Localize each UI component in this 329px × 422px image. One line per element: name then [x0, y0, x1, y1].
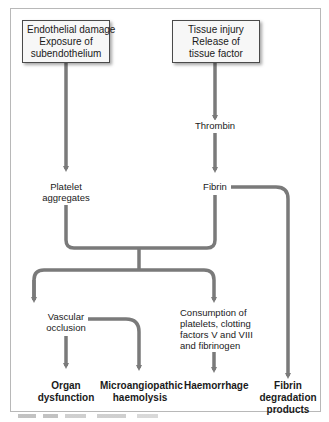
label-line: Vascular: [44, 311, 88, 322]
fibrin-degradation-products-outcome: Fibrin degradation products: [258, 380, 318, 416]
outcome-line: Organ: [36, 380, 96, 392]
consumption-label: Consumption of platelets, clotting facto…: [180, 307, 260, 351]
label-line: aggregates: [40, 192, 92, 203]
outcome-line: Haemorrhage: [184, 380, 244, 392]
box-line: Exposure of: [27, 36, 105, 48]
box-line: Endothelial damage: [27, 24, 105, 36]
thrombin-label: Thrombin: [190, 120, 240, 131]
figure-caption-cutoff: [18, 414, 198, 418]
box-line: Release of: [177, 36, 255, 48]
platelet-aggregates-label: Platelet aggregates: [40, 181, 92, 203]
fibrin-label: Fibrin: [199, 181, 231, 192]
outcome-line: Microangiopathic: [100, 380, 180, 392]
vascular-occlusion-label: Vascular occlusion: [44, 311, 88, 333]
label-line: occlusion: [44, 322, 88, 333]
outcome-line: products: [258, 404, 318, 416]
label-line: factors V and VIII: [180, 329, 260, 340]
fibrin-text: Fibrin: [199, 181, 231, 192]
label-line: and fibrinogen: [180, 340, 260, 351]
outcome-line: haemolysis: [100, 392, 180, 404]
haemorrhage-outcome: Haemorrhage: [184, 380, 244, 392]
label-line: Consumption of: [180, 307, 260, 318]
box-line: subendothelium: [27, 48, 105, 60]
label-line: platelets, clotting: [180, 318, 260, 329]
box-line: tissue factor: [177, 48, 255, 60]
outcome-line: dysfunction: [36, 392, 96, 404]
outcome-line: degradation: [258, 392, 318, 404]
microangiopathic-haemolysis-outcome: Microangiopathic haemolysis: [100, 380, 180, 404]
outcome-line: Fibrin: [258, 380, 318, 392]
tissue-injury-box: Tissue injury Release of tissue factor: [172, 20, 260, 63]
label-line: Platelet: [40, 181, 92, 192]
box-line: Tissue injury: [177, 24, 255, 36]
arrow-connectors: [0, 0, 329, 422]
endothelial-damage-box: Endothelial damage Exposure of subendoth…: [22, 20, 110, 63]
thrombin-text: Thrombin: [190, 120, 240, 131]
organ-dysfunction-outcome: Organ dysfunction: [36, 380, 96, 404]
